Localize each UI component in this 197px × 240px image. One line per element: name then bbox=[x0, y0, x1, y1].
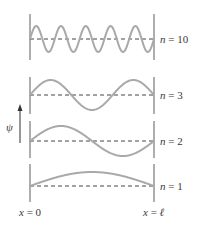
wavefunction-curves bbox=[30, 26, 154, 186]
dashed-baselines bbox=[30, 39, 154, 186]
psi-axis-label: ψ bbox=[6, 122, 13, 133]
state-label-n3: n = 3 bbox=[160, 90, 183, 101]
state-label-n1: n = 1 bbox=[160, 181, 183, 192]
left-boundary-label: x = 0 bbox=[19, 207, 41, 218]
state-label-n10: n = 10 bbox=[160, 34, 188, 45]
psi-axis-arrow-icon bbox=[18, 104, 23, 143]
state-label-n2: n = 2 bbox=[160, 136, 183, 147]
wave-n1 bbox=[30, 172, 154, 186]
right-boundary-label: x = ℓ bbox=[143, 207, 164, 218]
